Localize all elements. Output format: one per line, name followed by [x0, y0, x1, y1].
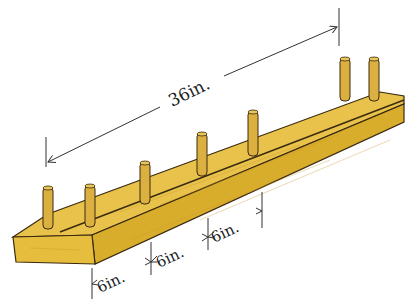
board-end-face [13, 235, 95, 264]
peg-7 [369, 57, 379, 101]
spacing-label-2: 6in. [153, 243, 187, 271]
peg-1 [43, 186, 53, 229]
peg-6 [340, 57, 350, 101]
diagram-canvas: 36in. 6in. 6in. 6in. [0, 0, 407, 299]
peg-5 [248, 110, 258, 156]
peg-4 [197, 132, 207, 176]
peg-3 [140, 161, 150, 204]
board-groove-line [60, 100, 404, 232]
board-top-face [13, 92, 404, 237]
total-length-label: 36in. [165, 74, 213, 111]
spacing-label-1: 6in. [94, 268, 128, 296]
peg-2 [85, 184, 95, 227]
